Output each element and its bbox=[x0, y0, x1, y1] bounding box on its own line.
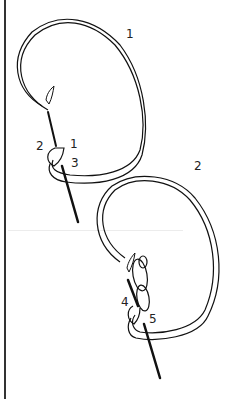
point-1-label: 1 bbox=[70, 138, 78, 150]
stitch-illustration bbox=[0, 0, 233, 399]
needle-1-upper bbox=[48, 112, 56, 146]
ribbon-loop-2 bbox=[103, 181, 214, 333]
point-3-label: 3 bbox=[71, 157, 79, 169]
step-2-label: 2 bbox=[194, 160, 202, 172]
step-1-label: 1 bbox=[126, 28, 134, 40]
point-4-label: 4 bbox=[121, 296, 129, 308]
point-5-label: 5 bbox=[149, 313, 157, 325]
point-2-label: 2 bbox=[36, 140, 44, 152]
needle-2-lower bbox=[144, 324, 160, 378]
